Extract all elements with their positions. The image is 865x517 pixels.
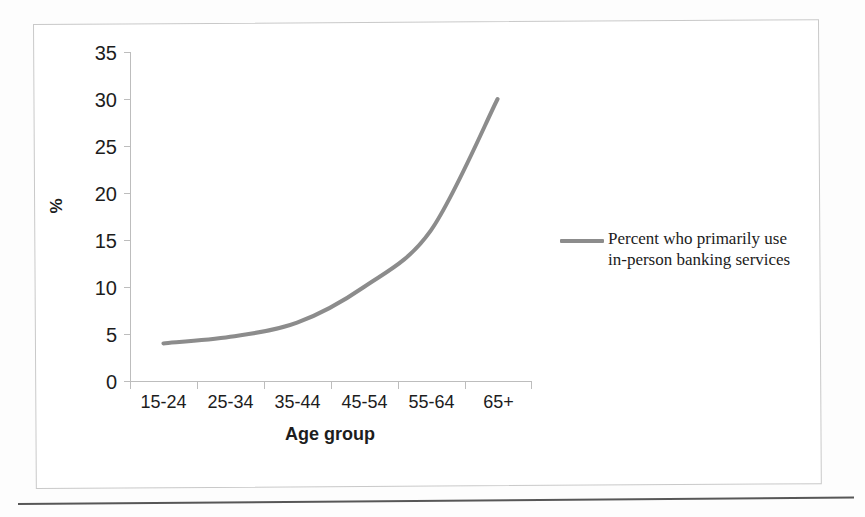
- legend: Percent who primarily use in-person bank…: [560, 228, 810, 271]
- page-horizontal-rule: [18, 496, 854, 505]
- x-tick-label-55-64: 55-64: [398, 392, 465, 413]
- y-tick-label-10: 10: [77, 278, 117, 298]
- y-tick-label-0: 0: [77, 372, 117, 392]
- x-tick-label-25-34: 25-34: [197, 392, 264, 413]
- x-axis-tick-3: [331, 382, 332, 389]
- x-axis-title: Age group: [130, 424, 530, 445]
- x-tick-label-15-24: 15-24: [130, 392, 197, 413]
- scanned-page: 35 30 25 20 15 10 5 0 15-24 25-34 35-44 …: [0, 0, 865, 517]
- y-axis-tick-15: [124, 240, 131, 241]
- y-axis-tick-25: [124, 146, 131, 147]
- y-tick-label-25: 25: [77, 137, 117, 157]
- y-tick-label-30: 30: [77, 90, 117, 110]
- y-axis-tick-labels: 35 30 25 20 15 10 5 0: [62, 0, 117, 440]
- x-axis-tick-1: [197, 382, 198, 389]
- x-axis-tick-6: [531, 382, 532, 389]
- y-axis-tick-20: [124, 193, 131, 194]
- x-axis-tick-4: [398, 382, 399, 389]
- y-tick-label-20: 20: [77, 184, 117, 204]
- x-axis-tick-2: [264, 382, 265, 389]
- legend-swatch-in-person-banking: [560, 239, 604, 243]
- y-axis-line: [130, 52, 131, 382]
- y-tick-label-15: 15: [77, 231, 117, 251]
- y-axis-tick-35: [124, 52, 131, 53]
- y-axis-tick-10: [124, 287, 131, 288]
- y-axis-tick-30: [124, 99, 131, 100]
- x-axis-tick-5: [465, 382, 466, 389]
- y-axis-title: %: [47, 198, 67, 213]
- y-tick-label-35: 35: [77, 43, 117, 63]
- y-axis-tick-5: [124, 334, 131, 335]
- x-tick-label-35-44: 35-44: [264, 392, 331, 413]
- x-tick-label-45-54: 45-54: [331, 392, 398, 413]
- y-tick-label-5: 5: [77, 325, 117, 345]
- legend-label-in-person-banking: Percent who primarily use in-person bank…: [608, 228, 790, 271]
- x-tick-label-65plus: 65+: [465, 392, 532, 413]
- x-axis-tick-0: [130, 382, 131, 389]
